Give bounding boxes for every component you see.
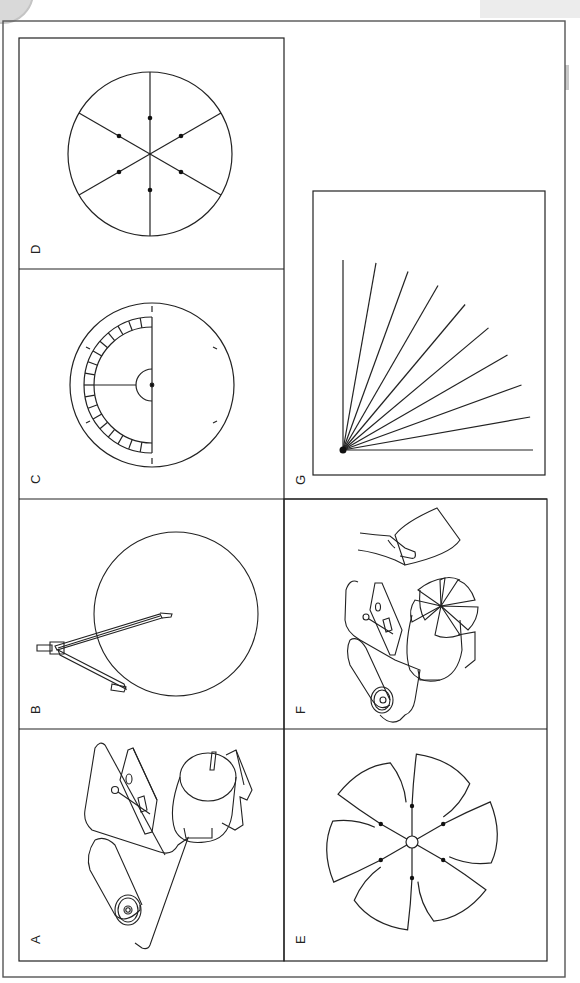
panel-d [68, 72, 232, 236]
panel-label-b: B [28, 705, 43, 714]
panel-label-d: D [28, 245, 43, 254]
panel-c [70, 303, 234, 467]
panel-label-a: A [28, 935, 43, 944]
panel-label-e: E [293, 935, 308, 944]
panel-g [343, 260, 533, 450]
panel-g-frame [313, 191, 545, 475]
panel-label-f: F [293, 706, 308, 714]
panel-e [327, 754, 498, 930]
panel-f [345, 508, 478, 722]
right-column-frame [284, 499, 547, 961]
panel-label-g: G [293, 475, 308, 485]
panel-b [37, 532, 258, 696]
panel-label-c: C [28, 475, 43, 484]
panel-a [85, 743, 252, 948]
